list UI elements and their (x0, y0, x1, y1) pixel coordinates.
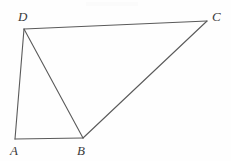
figure-canvas (0, 0, 231, 161)
vertex-label-c: C (212, 10, 221, 23)
vertex-label-d: D (18, 10, 27, 23)
geometry-figure: D C A B (0, 0, 231, 161)
vertex-label-b: B (77, 144, 85, 157)
edge-db (24, 29, 83, 138)
edge-dc (24, 21, 207, 29)
edge-ad (15, 29, 24, 139)
edge-ba (15, 138, 83, 139)
vertex-label-a: A (10, 144, 18, 157)
edge-cb (83, 21, 207, 138)
